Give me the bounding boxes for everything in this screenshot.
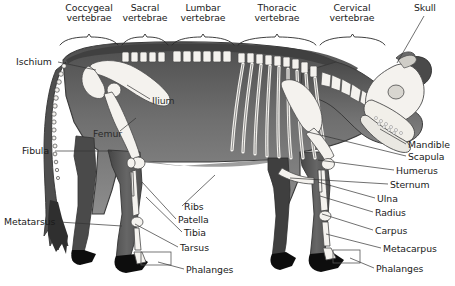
- label-top-right-skull: Skull: [414, 3, 436, 13]
- bracket-label-thoracic: Thoracicvertebrae: [254, 3, 299, 23]
- label-right-humerus: Humerus: [396, 166, 438, 176]
- leader-tibia: [146, 197, 182, 232]
- sacral-vertebrae: [122, 52, 165, 62]
- bracket-thoracic: [238, 34, 316, 45]
- label-left-ischium: Ischium: [16, 57, 52, 67]
- label-right-phalanges: Phalanges: [376, 264, 423, 274]
- label-left-fibula: Fibula: [22, 146, 49, 156]
- leader-carpus: [322, 214, 373, 230]
- fibula-bone: [131, 172, 134, 196]
- label-center-patella: Patella: [178, 215, 209, 225]
- leader-tarsus: [135, 224, 178, 247]
- label-right-sternum: Sternum: [390, 180, 429, 190]
- figure-canvas: CoccygealvertebraeSacralvertebraeLumbarv…: [0, 0, 455, 286]
- leader-metacarpus: [326, 234, 381, 248]
- label-right-metacarpus: Metacarpus: [383, 244, 437, 254]
- bracket-label-cervical: Cervicalvertebrae: [329, 3, 374, 23]
- bracket-label-sacral: Sacralvertebrae: [122, 3, 167, 23]
- label-right-mandible: Mandible: [408, 140, 450, 150]
- tarsus-joint: [131, 217, 143, 227]
- label-center-tibia: Tibia: [184, 228, 206, 238]
- patella-bone: [127, 158, 135, 168]
- leader-metatarsus: [59, 222, 122, 226]
- label-right-scapula: Scapula: [408, 152, 444, 162]
- label-on-body-ilium: Ilium: [152, 96, 175, 106]
- label-right-ulna: Ulna: [377, 194, 398, 204]
- label-left-metatarsus: Metatarsus: [4, 217, 55, 227]
- label-right-radius: Radius: [375, 208, 406, 218]
- bracket-cervical: [320, 34, 385, 45]
- orbit-eye-socket: [388, 85, 404, 99]
- label-center-tarsus: Tarsus: [180, 243, 209, 253]
- leader-patella: [142, 182, 176, 219]
- ulna-bone: [318, 170, 322, 192]
- bracket-label-coccygeal: Coccygealvertebrae: [65, 3, 112, 23]
- label-center-ribs: Ribs: [184, 202, 204, 212]
- bracket-label-lumbar: Lumbarvertebrae: [180, 3, 225, 23]
- bracket-coccygeal: [60, 34, 118, 45]
- elbow-joint: [322, 159, 335, 170]
- label-on-body-femur: Femur: [93, 129, 122, 139]
- label-center-phalanges: Phalanges: [186, 265, 233, 275]
- label-right-carpus: Carpus: [375, 226, 407, 236]
- metatarsus-bone: [134, 228, 141, 250]
